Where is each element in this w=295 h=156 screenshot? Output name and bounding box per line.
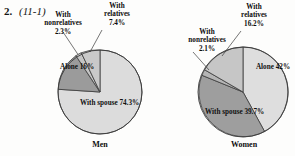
label-men-with-spouse: With spouse 74.3% [80,99,136,107]
label-men-alone: Alone 16% [60,63,93,71]
figure-container: 2. (11-1) With nonrelatives 2.3% With re… [0,0,295,156]
label-women-with-nonrelatives: With nonrelatives 2.1% [178,28,236,53]
label-women-with-spouse: With spouse 39.7% [205,108,261,116]
caption-women: Women [218,140,270,149]
label-men-with-nonrelatives: With nonrelatives 2.3% [34,11,92,36]
pie-chart-women: With nonrelatives 2.1% With relatives 16… [148,0,295,156]
label-women-alone: Alone 42% [255,63,291,71]
pie-chart-men: With nonrelatives 2.3% With relatives 7.… [0,0,148,156]
caption-men: Men [76,140,124,149]
leader-line-women-nonrelatives [193,52,209,70]
label-men-with-relatives: With relatives 7.4% [93,2,141,27]
label-women-with-relatives: With relatives 16.2% [229,3,279,28]
